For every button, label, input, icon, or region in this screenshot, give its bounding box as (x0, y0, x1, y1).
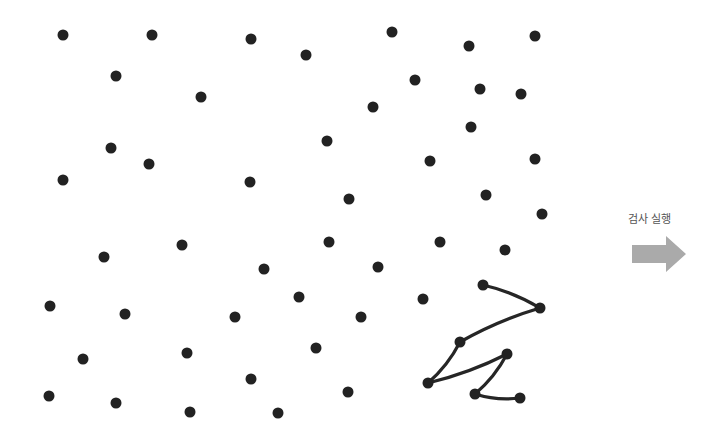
dot (356, 312, 367, 323)
dot (464, 41, 475, 52)
dot (273, 408, 284, 419)
dot (45, 301, 56, 312)
dot (196, 92, 207, 103)
dot (515, 393, 526, 404)
dot (147, 30, 158, 41)
path-segment (460, 308, 540, 342)
dot (530, 31, 541, 42)
run-inspection-label: 검사 실행 (628, 210, 672, 226)
dot (311, 343, 322, 354)
dot (144, 159, 155, 170)
dot (58, 30, 69, 41)
dot (410, 75, 421, 86)
dot (368, 102, 379, 113)
dot (245, 177, 256, 188)
dot (530, 154, 541, 165)
dot (246, 374, 257, 385)
dot (246, 34, 257, 45)
dot (324, 237, 335, 248)
dot (230, 312, 241, 323)
dot (373, 262, 384, 273)
dot (58, 175, 69, 186)
dot (418, 294, 429, 305)
dot (106, 143, 117, 154)
dot (177, 240, 188, 251)
dot (537, 209, 548, 220)
dot (343, 387, 354, 398)
dot (322, 136, 333, 147)
dot (185, 407, 196, 418)
dot (500, 245, 511, 256)
dot (301, 50, 312, 61)
dot (387, 27, 398, 38)
dot (78, 354, 89, 365)
path-segment (475, 394, 520, 399)
dot-path-diagram (0, 0, 718, 444)
dot (182, 348, 193, 359)
dot (44, 391, 55, 402)
dot (294, 292, 305, 303)
dot (455, 337, 466, 348)
dot (423, 378, 434, 389)
dot (478, 280, 489, 291)
dot (481, 190, 492, 201)
dot (502, 349, 513, 360)
dot (435, 237, 446, 248)
dot (475, 84, 486, 95)
dot (259, 264, 270, 275)
dot (111, 71, 122, 82)
dot (470, 389, 481, 400)
path-segment (483, 285, 540, 308)
dot (99, 252, 110, 263)
dot (535, 303, 546, 314)
right-arrow-icon[interactable] (632, 236, 686, 272)
dot (516, 89, 527, 100)
dot (466, 122, 477, 133)
dot (111, 398, 122, 409)
dot (344, 194, 355, 205)
dot (120, 309, 131, 320)
dot (425, 156, 436, 167)
path-segment (428, 354, 507, 383)
